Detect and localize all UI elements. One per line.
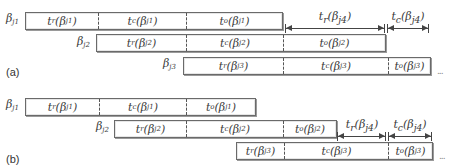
- panel-tag: (a): [6, 66, 19, 78]
- segment-tr: tr(βj2): [97, 35, 186, 51]
- segment-tr: tr(βj1): [26, 13, 98, 29]
- ellipsis: ...: [439, 151, 445, 161]
- row-label-j2: βj2: [77, 35, 90, 49]
- segment-tc: tc(βj2): [186, 121, 283, 137]
- segment-tc: tc(βj1): [99, 99, 186, 115]
- task-bar-j3: tr(βj3) tc(βj3) to(βj3): [183, 57, 431, 75]
- segment-to: to(βj1): [186, 13, 282, 29]
- task-bar-j2: tr(βj2) tc(βj2) to(βj2): [96, 34, 386, 52]
- segment-to: to(βj2): [283, 121, 336, 137]
- segment-to: to(βj3): [388, 58, 430, 74]
- segment-tr: tr(βj2): [115, 121, 186, 137]
- segment-tr: tr(βj1): [26, 99, 99, 115]
- row-label-j2: βj2: [96, 120, 109, 134]
- task-bar-j2: tr(βj2) tc(βj2) to(βj2): [114, 120, 337, 138]
- segment-tc: tc(βj1): [98, 13, 186, 29]
- segment-tc: tc(βj3): [284, 143, 388, 159]
- segment-to: to(βj3): [388, 143, 432, 159]
- segment-tr: tr(βj3): [237, 143, 284, 159]
- task-bar-j3: tr(βj3) tc(βj3) to(βj3): [236, 142, 433, 160]
- ellipsis: ...: [437, 66, 443, 76]
- row-label-j3: βj3: [163, 57, 176, 71]
- dimension-arrow-tr-j4: [285, 23, 385, 33]
- dimension-arrow-tc-j4: [387, 23, 429, 33]
- segment-to: to(βj2): [283, 35, 385, 51]
- row-label-j1: βj1: [6, 98, 19, 112]
- dimension-arrow-tr-j4: [337, 131, 386, 141]
- segment-tr: tr(βj3): [184, 58, 283, 74]
- task-bar-j1: tr(βj1) tc(βj1) to(βj1): [25, 98, 256, 116]
- task-bar-j1: tr(βj1) tc(βj1) to(βj1): [25, 12, 283, 30]
- dimension-arrow-tc-j4: [388, 131, 432, 141]
- panel-tag: (b): [6, 153, 19, 165]
- segment-tc: tc(βj2): [186, 35, 283, 51]
- row-label-j1: βj1: [6, 12, 19, 26]
- segment-to: to(βj1): [186, 99, 255, 115]
- segment-tc: tc(βj3): [283, 58, 388, 74]
